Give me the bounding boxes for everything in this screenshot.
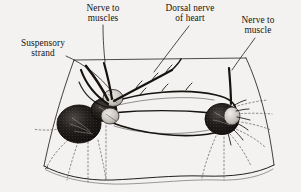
label-line-2: muscle: [229, 25, 287, 35]
label-line-1: Suspensory: [8, 38, 78, 48]
pale-ganglion-lobe-lower: [101, 108, 119, 124]
label-suspensory-strand: Suspensory strand: [8, 38, 78, 59]
label-line-2: of heart: [155, 13, 225, 23]
label-line-1: Nerve to: [74, 3, 132, 13]
right-ganglion-pale-lobe: [224, 107, 240, 125]
label-line-1: Dorsal nerve: [155, 3, 225, 13]
label-line-2: strand: [8, 48, 78, 58]
label-line-2: muscles: [74, 13, 132, 23]
label-nerve-to-muscles: Nerve to muscles: [74, 3, 132, 24]
label-dorsal-nerve-of-heart: Dorsal nerve of heart: [155, 3, 225, 24]
label-nerve-to-muscle: Nerve to muscle: [229, 15, 287, 36]
label-line-1: Nerve to: [229, 15, 287, 25]
